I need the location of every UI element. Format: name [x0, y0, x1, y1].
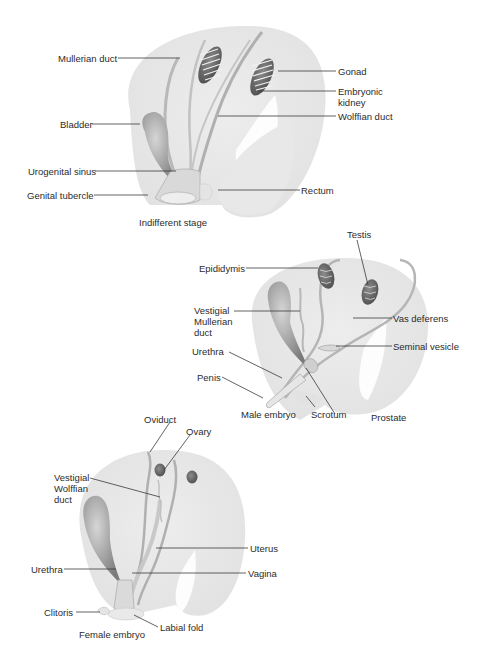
- genital-tubercle-shape: [160, 192, 196, 204]
- caption-indifferent-stage: Indifferent stage: [139, 217, 207, 228]
- label-vestigial-wolffian-line3: duct: [54, 494, 72, 505]
- label-clitoris: Clitoris: [44, 607, 73, 618]
- label-uterus: Uterus: [250, 543, 278, 554]
- male-embryo-figure: [252, 258, 428, 420]
- label-oviduct: Oviduct: [144, 414, 176, 425]
- label-embryonic-kidney-line1: Embryonic: [338, 86, 383, 97]
- caption-male-embryo: Male embryo: [241, 409, 296, 420]
- label-vestigial-mullerian-line1: Vestigial: [194, 305, 229, 316]
- indifferent-stage-figure: [128, 26, 325, 218]
- label-labial-fold: Labial fold: [160, 622, 203, 633]
- label-testis: Testis: [347, 229, 371, 240]
- urethra-vagina-base: [114, 580, 134, 611]
- label-urogenital-sinus: Urogenital sinus: [28, 166, 96, 177]
- label-penis: Penis: [197, 372, 221, 383]
- label-vestigial-mullerian-line2: Mullerian: [194, 316, 233, 327]
- label-scrotum: Scrotum: [311, 409, 346, 420]
- label-gonad: Gonad: [338, 66, 367, 77]
- clitoris-shape: [98, 607, 110, 615]
- ovary-right: [187, 471, 198, 484]
- label-embryonic-kidney-line2: kidney: [338, 97, 365, 108]
- label-vestigial-mullerian-line3: duct: [194, 327, 212, 338]
- embryo-development-illustration: [0, 0, 477, 652]
- label-urethra-female: Urethra: [31, 564, 63, 575]
- label-genital-tubercle: Genital tubercle: [27, 190, 94, 201]
- label-mullerian-duct: Mullerian duct: [58, 53, 117, 64]
- caption-female-embryo: Female embryo: [79, 629, 145, 640]
- label-vagina: Vagina: [248, 568, 277, 579]
- label-rectum: Rectum: [301, 185, 334, 196]
- label-vestigial-wolffian-line2: Wolffian: [54, 483, 88, 494]
- rectum-stub: [200, 184, 212, 200]
- label-vestigial-wolffian-line1: Vestigial: [54, 472, 89, 483]
- label-wolffian-duct: Wolffian duct: [338, 111, 393, 122]
- label-ovary: Ovary: [186, 426, 211, 437]
- label-vas-deferens: Vas deferens: [393, 313, 448, 324]
- label-urethra-male: Urethra: [192, 346, 224, 357]
- female-embryo-figure: [79, 450, 245, 620]
- label-prostate: Prostate: [371, 412, 406, 423]
- label-seminal-vesicle: Seminal vesicle: [393, 341, 459, 352]
- label-bladder: Bladder: [60, 119, 93, 130]
- label-epididymis: Epididymis: [199, 263, 245, 274]
- ovary-left: [155, 464, 166, 477]
- labial-fold-shape: [108, 608, 144, 620]
